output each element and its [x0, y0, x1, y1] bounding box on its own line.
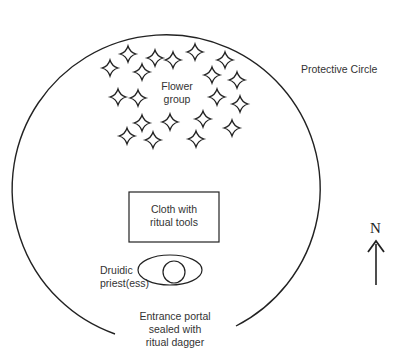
cloth-label: Cloth with ritual tools — [134, 203, 214, 229]
entrance-label: Entrance portal sealed with ritual dagge… — [130, 310, 220, 349]
entrance-line-3: ritual dagger — [130, 336, 220, 349]
flower-star-icon — [110, 89, 126, 105]
flower-star-icon — [119, 128, 135, 144]
flower-star-icon — [229, 72, 245, 88]
protective-circle-label: Protective Circle — [301, 63, 377, 76]
flower-star-icon — [145, 132, 161, 148]
flower-star-icon — [187, 44, 203, 60]
diagram-canvas — [0, 0, 404, 363]
priest-label: Druidic priest(ess) — [100, 264, 149, 290]
flower-star-icon — [162, 114, 178, 130]
flower-group-label: Flower group — [157, 80, 197, 106]
flower-star-icon — [134, 115, 150, 131]
flower-star-icon — [188, 131, 204, 147]
entrance-line-2: sealed with — [130, 323, 220, 336]
flower-star-icon — [204, 67, 220, 83]
flower-group-line-2: group — [157, 93, 197, 106]
flower-star-icon — [195, 111, 211, 127]
entrance-line-1: Entrance portal — [130, 310, 220, 323]
north-arrow-icon — [368, 241, 384, 285]
flower-star-icon — [209, 89, 225, 105]
flower-star-icon — [217, 52, 233, 68]
flower-star-icon — [232, 96, 248, 112]
cloth-line-1: Cloth with — [134, 203, 214, 216]
flower-star-icon — [120, 46, 136, 62]
priest-circle — [163, 261, 185, 283]
priest-line-1: Druidic — [100, 264, 149, 277]
flower-star-icon — [165, 52, 181, 68]
priest-line-2: priest(ess) — [100, 277, 149, 290]
flower-star-icon — [147, 50, 163, 66]
north-label: N — [370, 220, 381, 237]
cloth-line-2: ritual tools — [134, 216, 214, 229]
flower-star-icon — [102, 60, 118, 76]
flower-star-icon — [134, 64, 150, 80]
flower-group-line-1: Flower — [157, 80, 197, 93]
flower-star-icon — [130, 90, 146, 106]
flower-star-icon — [224, 120, 240, 136]
